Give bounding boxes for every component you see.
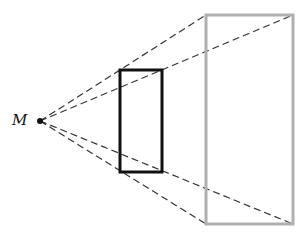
diagram: M xyxy=(0,0,303,240)
point-label: M xyxy=(12,111,27,129)
perspective-diagram xyxy=(0,0,303,240)
line-bottom-right xyxy=(40,121,293,224)
projection-lines xyxy=(40,15,293,224)
line-top-right xyxy=(40,15,293,121)
point-m xyxy=(37,118,43,124)
line-top-left xyxy=(40,15,206,121)
